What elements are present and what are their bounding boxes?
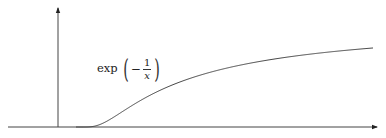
open-paren: ( bbox=[123, 56, 129, 82]
fraction: 1 x bbox=[143, 58, 151, 81]
minus-sign: − bbox=[131, 63, 141, 75]
function-label: exp ( − 1 x ) bbox=[97, 56, 162, 82]
fraction-numerator: 1 bbox=[143, 58, 151, 70]
function-plot bbox=[0, 0, 386, 138]
fraction-denominator: x bbox=[144, 70, 150, 81]
close-paren: ) bbox=[155, 56, 161, 82]
function-name: exp bbox=[97, 63, 118, 75]
